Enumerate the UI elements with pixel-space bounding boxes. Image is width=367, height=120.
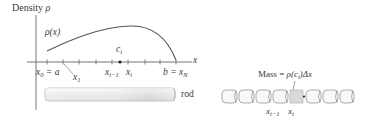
mass-tail: )Δx [300, 69, 312, 79]
y-axis-label: Density ρ [12, 3, 50, 13]
segment-label-xi: xi [288, 107, 294, 118]
c-sub: i [120, 48, 122, 55]
mass-text: Mass = [258, 69, 287, 79]
xN-sub: N [183, 71, 187, 78]
tick-label-xN: b = xN [163, 68, 187, 79]
rod-label: rod [181, 90, 194, 100]
sample-point-label: ci [116, 45, 122, 56]
x1-leader-line [64, 64, 73, 74]
tick-label-xi: xi [126, 68, 132, 79]
diagram-graphics [0, 0, 367, 120]
y-axis-label-text: Density [12, 2, 43, 13]
seg-xim1-sub: i−1 [270, 110, 279, 117]
segment-label-xi-minus-1: xi−1 [266, 107, 279, 118]
mass-leader-line [293, 81, 295, 90]
tick-label-x0: x0 = a [36, 68, 59, 79]
mass-formula: Mass = ρ(ci)Δx [258, 70, 312, 81]
tick-label-xi-minus-1: xi−1 [105, 68, 119, 79]
highlighted-segment [290, 90, 303, 103]
curve-label: ρ(x) [45, 28, 60, 38]
xi-sub: i [130, 71, 132, 78]
segmented-rod [222, 90, 354, 103]
sample-point-dot [118, 60, 121, 63]
mass-rho: ρ(c [287, 69, 298, 79]
tick-label-x1: x1 [73, 73, 80, 84]
x-axis-label: x [193, 56, 197, 66]
rho-symbol: ρ [46, 2, 51, 13]
rod [45, 88, 175, 101]
density-curve [47, 26, 176, 60]
xN-prefix: b = [163, 67, 179, 77]
seg-xi-sub: i [292, 110, 294, 117]
x0-suffix: = a [43, 67, 59, 77]
x1-sub: 1 [77, 76, 80, 83]
xim1-sub: i−1 [109, 71, 118, 78]
